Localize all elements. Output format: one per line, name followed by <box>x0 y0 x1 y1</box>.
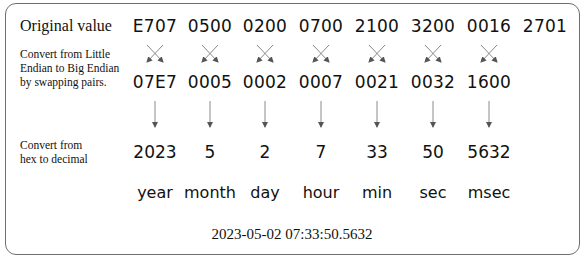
arrows-layer <box>0 0 584 260</box>
swap-arrow-icon-3 <box>313 45 329 62</box>
swap-arrow-icon-6 <box>481 45 497 62</box>
down-arrows <box>155 101 489 127</box>
swap-arrows <box>147 45 497 62</box>
swap-arrow-icon-1 <box>202 45 218 62</box>
swap-arrow-icon-2 <box>257 45 273 62</box>
swap-arrow-icon-4 <box>369 45 385 62</box>
swap-arrow-icon-5 <box>425 45 441 62</box>
swap-arrow-icon-0 <box>147 45 163 62</box>
